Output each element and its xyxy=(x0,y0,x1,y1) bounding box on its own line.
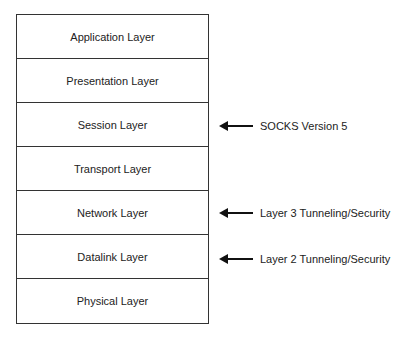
layer-label: Network Layer xyxy=(77,207,148,219)
presentation-layer: Presentation Layer xyxy=(17,59,208,103)
datalink-layer: Datalink Layer xyxy=(17,235,208,279)
annotation-socks: SOCKS Version 5 xyxy=(219,119,347,133)
left-arrow-icon xyxy=(219,208,253,218)
annotation-layer3: Layer 3 Tunneling/Security xyxy=(219,206,390,220)
layer-label: Application Layer xyxy=(70,31,154,43)
annotation-label: SOCKS Version 5 xyxy=(260,120,347,132)
network-layer: Network Layer xyxy=(17,191,208,235)
layer-label: Session Layer xyxy=(78,119,148,131)
layer-label: Presentation Layer xyxy=(66,75,158,87)
layer-label: Datalink Layer xyxy=(77,251,147,263)
physical-layer: Physical Layer xyxy=(17,279,208,322)
layer-label: Transport Layer xyxy=(74,163,151,175)
transport-layer: Transport Layer xyxy=(17,147,208,191)
annotation-label: Layer 2 Tunneling/Security xyxy=(260,253,390,265)
annotation-layer2: Layer 2 Tunneling/Security xyxy=(219,252,390,266)
session-layer: Session Layer xyxy=(17,103,208,147)
left-arrow-icon xyxy=(219,254,253,264)
annotation-label: Layer 3 Tunneling/Security xyxy=(260,207,390,219)
layer-label: Physical Layer xyxy=(77,295,149,307)
osi-layer-stack: Application Layer Presentation Layer Ses… xyxy=(16,14,209,324)
left-arrow-icon xyxy=(219,121,253,131)
application-layer: Application Layer xyxy=(17,15,208,59)
